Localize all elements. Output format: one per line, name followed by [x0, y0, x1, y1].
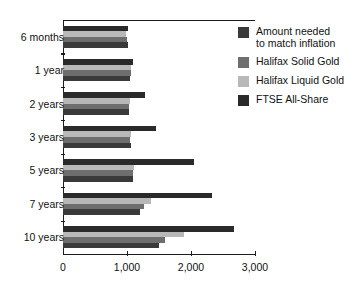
legend-item[interactable]: Amount needed to match inflation — [238, 26, 359, 49]
legend-item[interactable]: Halifax Liquid Gold — [238, 75, 359, 87]
bar — [63, 209, 140, 215]
y-axis-tick — [61, 53, 65, 54]
bar — [63, 109, 129, 115]
x-axis-line — [63, 254, 255, 255]
bar — [63, 76, 130, 82]
legend-label: Halifax Liquid Gold — [256, 75, 344, 87]
x-axis-tick-label: 2,000 — [178, 261, 204, 273]
legend-item[interactable]: Halifax Solid Gold — [238, 56, 359, 68]
x-axis-tick-label: 3,000 — [242, 261, 268, 273]
bar — [63, 176, 133, 182]
x-axis-tick — [127, 251, 128, 256]
category-label: 5 years — [0, 164, 64, 176]
y-axis-tick — [61, 221, 65, 222]
bar — [63, 42, 128, 48]
x-axis-tick-label: 0 — [60, 261, 66, 273]
chart-title-cropped — [60, 0, 290, 5]
bar — [63, 143, 131, 149]
legend-swatch-icon — [238, 27, 249, 38]
bar-group — [63, 221, 255, 254]
legend-label: FTSE All-Share — [256, 94, 328, 106]
category-label: 10 years — [0, 231, 64, 243]
bar-group — [63, 20, 255, 53]
bar-group — [63, 120, 255, 153]
legend-swatch-icon — [238, 57, 249, 68]
bar-group — [63, 154, 255, 187]
x-axis-tick — [191, 251, 192, 256]
category-label: 3 years — [0, 131, 64, 143]
x-axis-tick-label: 1,000 — [114, 261, 140, 273]
bar — [63, 243, 159, 249]
legend-label: Amount needed to match inflation — [256, 26, 335, 49]
bar-group — [63, 53, 255, 86]
chart-legend: Amount needed to match inflationHalifax … — [238, 26, 359, 113]
y-axis-tick — [61, 187, 65, 188]
legend-label: Halifax Solid Gold — [256, 56, 339, 68]
legend-item[interactable]: FTSE All-Share — [238, 94, 359, 106]
category-label: 2 years — [0, 98, 64, 110]
y-axis-tick — [61, 87, 65, 88]
category-label: 7 years — [0, 198, 64, 210]
category-label: 6 months — [0, 31, 64, 43]
x-axis-tick — [255, 251, 256, 256]
legend-swatch-icon — [238, 95, 249, 106]
bar-group — [63, 187, 255, 220]
bar-group — [63, 87, 255, 120]
category-label: 1 year — [0, 64, 64, 76]
legend-swatch-icon — [238, 76, 249, 87]
plot-area — [63, 20, 255, 254]
y-axis-tick — [61, 154, 65, 155]
y-axis-tick — [61, 120, 65, 121]
